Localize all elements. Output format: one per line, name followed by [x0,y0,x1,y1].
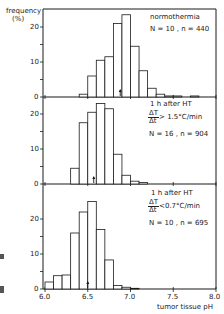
panel-top-title: normothermia [150,13,200,22]
histogram-bar [139,183,148,184]
histogram-bar [131,181,140,184]
panel-bot-counts: N = 10 , n = 695 [149,219,208,228]
ytick-mid-20: 20 [30,110,39,118]
histogram-bar [88,112,97,184]
histogram-bar [165,96,174,97]
histogram-bar [96,230,105,290]
histogram-bar [96,104,105,185]
xtick-6.0: 6.0 [39,293,50,301]
histogram-bar [88,202,97,290]
histogram-bar [71,233,80,289]
ytick-bot-10: 10 [30,250,39,258]
panel-mid-condition: ΔTΔt> 1.5°C/min [148,110,202,125]
histogram-bar [54,276,63,289]
histogram-bar [131,288,140,289]
histogram-bar [122,287,131,289]
panel-mid-counts: N = 16 , n = 904 [149,130,208,139]
x-axis-label: tumor tissue pH [157,303,213,311]
y-axis-label-unit: (%) [12,15,24,23]
ytick-top-20: 20 [30,23,39,31]
xtick-6.5: 6.5 [82,293,93,301]
ytick-bot-20: 20 [30,215,39,223]
histogram-bar [139,71,148,97]
y-axis-label: frequency [6,7,41,15]
histogram-figure [0,0,224,314]
dT-dt-fraction: ΔTΔt [148,110,159,125]
cropped-text-fragment [0,254,4,259]
cropped-text-fragment [0,286,4,293]
histogram-bar [79,123,88,184]
histogram-bar [113,24,122,98]
histogram-bar [113,286,122,290]
histogram-bar [122,15,131,97]
histogram-bar [131,46,140,97]
histogram-bar [122,175,131,184]
histogram-bar [113,154,122,184]
histogram-bar [105,109,114,184]
xtick-7.5: 7.5 [167,293,178,301]
histogram-bar [79,94,88,97]
panel-mid-title: 1 h after HT [150,100,192,109]
histogram-bar [156,94,165,97]
panel-top-counts: N = 10 , n = 440 [150,25,209,34]
histogram-bar [105,260,114,289]
histogram-bar [96,60,105,97]
dT-dt-fraction: ΔTΔt [148,199,159,214]
histogram-bar [88,76,97,97]
xtick-7.0: 7.0 [124,293,135,301]
histogram-bar [45,282,54,289]
ytick-top-0: 0 [34,93,38,101]
histogram-bar [62,275,71,289]
xtick-8.0: 8.0 [209,293,220,301]
ytick-mid-0: 0 [34,180,38,188]
ytick-bot-0: 0 [34,285,38,293]
panel-bot-condition: ΔTΔt<0.7°C/min [148,199,200,214]
histogram-bar [173,96,182,97]
ytick-mid-10: 10 [30,145,39,153]
histogram-bar [105,57,114,97]
ytick-top-10: 10 [30,58,39,66]
histogram-bar [190,96,199,97]
histogram-bar [79,212,88,289]
panel-bot-title: 1 h after HT [151,189,193,198]
histogram-bar [71,168,80,184]
histogram-bar [148,88,157,97]
